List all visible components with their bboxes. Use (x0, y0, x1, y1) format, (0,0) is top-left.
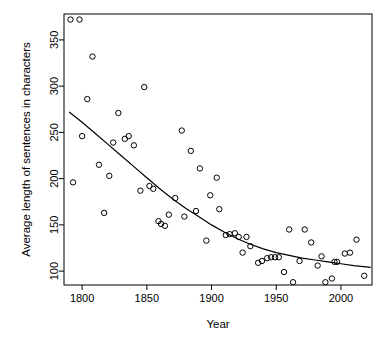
chart-figure: 18001850190019502000 100150200250300350 … (0, 0, 389, 340)
x-tick-label: 1950 (264, 292, 288, 304)
data-point (208, 193, 213, 198)
data-point (182, 214, 187, 219)
y-axis-tick-labels: 100150200250300350 (48, 31, 60, 281)
data-point (131, 143, 136, 148)
y-axis-ticks (59, 40, 64, 271)
data-point (96, 162, 101, 167)
x-tick-label: 2000 (329, 292, 353, 304)
data-point (138, 188, 143, 193)
data-point (362, 273, 367, 278)
data-point (126, 133, 131, 138)
data-point (329, 276, 334, 281)
data-point (151, 186, 156, 191)
data-point (240, 250, 245, 255)
data-point (302, 227, 307, 232)
data-point (101, 210, 106, 215)
y-tick-label: 100 (48, 262, 60, 280)
data-point (107, 173, 112, 178)
data-point (347, 250, 352, 255)
data-point (122, 136, 127, 141)
data-point (85, 96, 90, 101)
x-tick-label: 1850 (135, 292, 159, 304)
data-point (281, 269, 286, 274)
data-point (214, 175, 219, 180)
data-point (166, 212, 171, 217)
data-point (204, 238, 209, 243)
data-point (217, 206, 222, 211)
data-point (308, 240, 313, 245)
data-point (68, 17, 73, 22)
data-point (297, 258, 302, 263)
trend-curve (69, 112, 371, 267)
data-point (276, 255, 281, 260)
data-point (79, 133, 84, 138)
data-point (70, 180, 75, 185)
y-axis-title: Average length of sentences in character… (20, 42, 32, 257)
scatter-plot: 18001850190019502000 100150200250300350 … (0, 0, 389, 340)
data-point (354, 237, 359, 242)
data-point (142, 84, 147, 89)
data-point (290, 280, 295, 285)
data-point (193, 208, 198, 213)
data-point (116, 110, 121, 115)
plot-frame (64, 14, 372, 285)
y-tick-label: 300 (48, 77, 60, 95)
x-axis-tick-labels: 18001850190019502000 (70, 292, 353, 304)
data-point (188, 148, 193, 153)
data-point (244, 234, 249, 239)
y-tick-label: 350 (48, 31, 60, 49)
data-point (315, 263, 320, 268)
x-axis-ticks (82, 285, 341, 290)
x-tick-label: 1900 (199, 292, 223, 304)
y-tick-label: 200 (48, 169, 60, 187)
data-point (90, 54, 95, 59)
data-point (323, 280, 328, 285)
y-tick-label: 250 (48, 123, 60, 141)
data-point (342, 251, 347, 256)
x-tick-label: 1800 (70, 292, 94, 304)
y-tick-label: 150 (48, 216, 60, 234)
data-point (286, 227, 291, 232)
data-point (147, 183, 152, 188)
x-axis-title: Year (206, 318, 229, 330)
data-point (110, 140, 115, 145)
data-points (68, 17, 367, 285)
data-point (197, 166, 202, 171)
data-point (319, 254, 324, 259)
data-point (77, 17, 82, 22)
data-point (179, 128, 184, 133)
